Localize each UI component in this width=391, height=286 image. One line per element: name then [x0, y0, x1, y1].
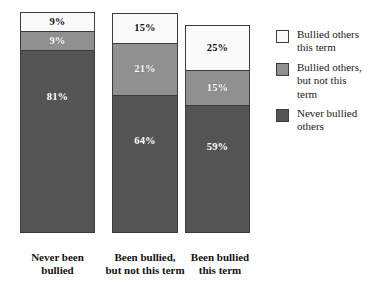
bar-group-been-bullied-not-this-term: 15% 21% 64% [112, 13, 178, 235]
bar-segment-bullied-others-this-term[interactable]: 15% [112, 13, 178, 44]
legend-item-bullied-others-this-term[interactable]: Bullied others this term [276, 28, 388, 55]
bar-segment-bullied-others-this-term[interactable]: 25% [185, 25, 250, 71]
legend-item-never-bullied-others[interactable]: Never bullied others [276, 107, 388, 134]
legend: Bullied others this term Bullied others,… [276, 28, 388, 140]
bar: 15% 21% 64% [112, 13, 178, 235]
bar-segment-never-bullied-others[interactable]: 59% [185, 105, 250, 233]
category-label-line1: Been bullied, [114, 251, 175, 263]
bar: 9% 9% 81% [20, 12, 95, 235]
legend-label-line2: this term [297, 41, 336, 53]
segment-value-label: 81% [47, 92, 69, 103]
stacked-bar-chart: 9% 9% 81% Never been bullied 15% 21% [0, 0, 391, 286]
bar-group-never-been-bullied: 9% 9% 81% [20, 12, 95, 235]
plot-area: 9% 9% 81% Never been bullied 15% 21% [0, 0, 270, 286]
legend-item-label: Bullied others this term [297, 28, 359, 55]
bar-segment-bullied-others-this-term[interactable]: 9% [20, 12, 95, 32]
segment-value-label: 15% [134, 23, 156, 34]
legend-label-line1: Bullied others, [297, 61, 362, 73]
bar-segment-bullied-others-not-this-term[interactable]: 21% [112, 43, 178, 96]
category-label-line2: this term [199, 264, 241, 276]
category-label-been-bullied-this-term: Been bullied this term [178, 251, 262, 279]
segment-value-label: 15% [207, 83, 229, 94]
segment-value-label: 25% [207, 43, 229, 54]
bar-segment-never-bullied-others[interactable]: 81% [20, 50, 95, 233]
legend-swatch-icon [276, 30, 289, 43]
legend-label-line2: but not this [297, 74, 347, 86]
legend-swatch-icon [276, 109, 289, 122]
category-label-line2: but not this term [105, 264, 184, 276]
segment-value-label: 59% [207, 142, 229, 153]
legend-item-bullied-others-not-this-term[interactable]: Bullied others, but not this term [276, 61, 388, 101]
legend-label-line1: Bullied others [297, 28, 359, 40]
category-label-line2: bullied [41, 264, 73, 276]
legend-label-line1: Never bullied [297, 107, 357, 119]
segment-value-label: 9% [49, 36, 65, 47]
bar-segment-bullied-others-not-this-term[interactable]: 15% [185, 70, 250, 106]
legend-label-line3: term [297, 88, 317, 100]
category-label-line1: Never been [31, 251, 84, 263]
category-label-line1: Been bullied [191, 251, 249, 263]
bar-segment-bullied-others-not-this-term[interactable]: 9% [20, 31, 95, 51]
segment-value-label: 21% [134, 64, 156, 75]
legend-swatch-icon [276, 63, 289, 76]
segment-value-label: 64% [134, 136, 156, 147]
segment-value-label: 9% [49, 17, 65, 28]
bar-segment-never-bullied-others[interactable]: 64% [112, 95, 178, 233]
bar-group-been-bullied-this-term: 25% 15% 59% [185, 25, 250, 235]
legend-item-label: Never bullied others [297, 107, 357, 134]
bar: 25% 15% 59% [185, 25, 250, 235]
legend-label-line2: others [297, 120, 324, 132]
legend-item-label: Bullied others, but not this term [297, 61, 362, 101]
